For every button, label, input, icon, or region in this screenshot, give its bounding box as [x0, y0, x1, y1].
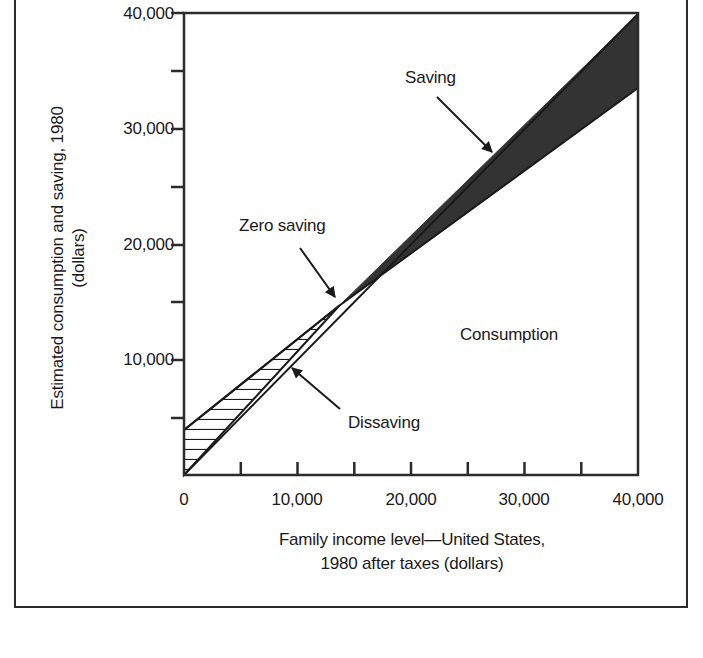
annotation-saving: Saving	[405, 68, 456, 88]
dissaving-arrow	[292, 368, 340, 409]
dissaving-region	[184, 306, 340, 476]
saving-region	[340, 14, 639, 306]
chart-plot-area	[0, 0, 703, 658]
annotation-consumption: Consumption	[460, 325, 558, 345]
x-axis-ticks	[241, 462, 582, 475]
figure-root: Estimated consumption and saving, 1980 (…	[0, 0, 703, 658]
saving-arrow	[437, 97, 492, 152]
zero-saving-arrow	[300, 248, 335, 297]
annotation-zero-saving: Zero saving	[239, 216, 326, 236]
annotation-dissaving: Dissaving	[348, 413, 420, 433]
y-axis-ticks	[171, 13, 184, 418]
